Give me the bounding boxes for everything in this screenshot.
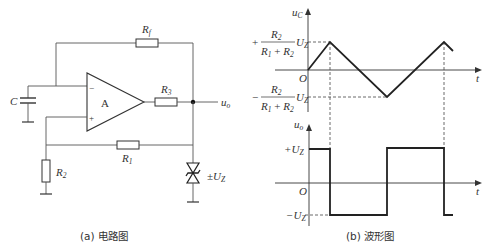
svg-text:UZ: UZ (296, 91, 309, 105)
svg-text:UZ: UZ (296, 36, 309, 50)
arrow-y-uc (305, 8, 311, 15)
label-pos-uz: +UZ (284, 143, 304, 157)
opamp-plus: + (89, 113, 94, 123)
resistor-r2 (42, 160, 50, 182)
arrow-y-uo (306, 124, 312, 131)
resistor-r1 (117, 141, 139, 149)
opamp-minus: − (89, 83, 94, 93)
label-rf: Rf (141, 23, 152, 37)
svg-text:R2: R2 (270, 83, 282, 97)
xlabel-bottom: t (476, 185, 480, 197)
resistor-r3 (155, 98, 177, 106)
label-neg-level: − R2 R1 + R2 UZ (252, 83, 309, 114)
svg-text:R1 + R2: R1 + R2 (260, 45, 294, 59)
xlabel-top: t (476, 72, 480, 84)
circuit-diagram: Rf C A − + R3 uo R1 R2 (10, 23, 231, 242)
label-r3: R3 (160, 83, 172, 97)
opamp-label: A (101, 97, 109, 109)
square-wave (309, 148, 453, 215)
svg-text:−: − (252, 91, 258, 103)
svg-text:R1 + R2: R1 + R2 (260, 100, 294, 114)
label-r2: R2 (55, 166, 67, 180)
label-c: C (10, 95, 18, 107)
zener-top (187, 163, 199, 173)
waveform-bottom: uo O t +UZ −UZ (b) 波形图 (275, 118, 482, 242)
label-uo: uo (221, 96, 231, 110)
svg-text:+: + (252, 36, 258, 48)
label-neg-uz: −UZ (286, 209, 306, 223)
ylabel-uo: uo (294, 118, 304, 132)
svg-text:R2: R2 (270, 28, 282, 42)
opamp (87, 73, 144, 131)
label-r1: R1 (121, 152, 132, 166)
diagram-canvas: Rf C A − + R3 uo R1 R2 (0, 0, 489, 249)
waveform-top: uC O t + R2 R1 + R2 UZ − R2 R1 + R2 UZ (252, 6, 482, 150)
zener-bottom (187, 173, 199, 183)
caption-circuit: (a) 电路图 (80, 230, 128, 242)
origin-top: O (299, 72, 307, 84)
label-zener: ±UZ (207, 170, 226, 184)
caption-waveform: (b) 波形图 (346, 230, 394, 242)
origin-bottom: O (299, 185, 307, 197)
resistor-rf (136, 39, 158, 47)
wire-noninverting (46, 117, 87, 145)
label-pos-level: + R2 R1 + R2 UZ (252, 28, 309, 59)
ylabel-uc: uC (292, 6, 304, 20)
